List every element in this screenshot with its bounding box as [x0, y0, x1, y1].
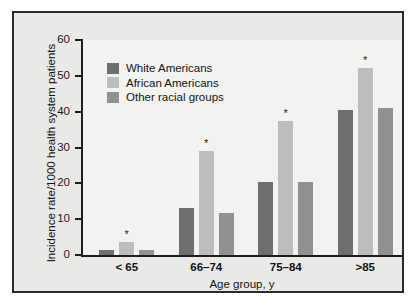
chart-screenshot: 0102030405060 Incidence rate/1000 health… [0, 0, 416, 305]
x-axis-line [81, 255, 403, 257]
bar [139, 250, 154, 255]
bar [258, 182, 273, 255]
legend-swatch-icon [107, 92, 119, 103]
legend-item-label: Other racial groups [126, 91, 224, 103]
significance-marker: * [279, 108, 293, 119]
y-axis-title: Incidence rate/1000 health system patien… [45, 38, 57, 268]
bar [119, 242, 134, 255]
y-axis-tick [75, 182, 82, 184]
y-axis-tick [75, 39, 82, 41]
significance-marker: * [120, 229, 134, 240]
bar [219, 213, 234, 255]
y-axis-tick [75, 218, 82, 220]
x-axis-title: Age group, y [81, 278, 403, 290]
legend: White AmericansAfrican AmericansOther ra… [107, 61, 224, 105]
y-axis-tick [75, 75, 82, 77]
y-axis-tick [75, 111, 82, 113]
bar [278, 121, 293, 255]
legend-item-label: African Americans [126, 77, 219, 89]
figure-frame: 0102030405060 Incidence rate/1000 health… [12, 11, 404, 293]
legend-item-label: White Americans [126, 62, 212, 74]
legend-item: African Americans [107, 76, 224, 91]
legend-swatch-icon [107, 77, 119, 88]
x-axis-tick-label: < 65 [87, 261, 167, 273]
x-axis-tick-label: 66–74 [166, 261, 246, 273]
x-axis-tick-label: >85 [325, 261, 405, 273]
legend-item: Other racial groups [107, 90, 224, 105]
bar [199, 151, 214, 255]
bar [99, 250, 114, 255]
y-axis-tick [75, 254, 82, 256]
bar [298, 182, 313, 255]
bar [378, 108, 393, 255]
bar [358, 68, 373, 255]
bar [338, 110, 353, 255]
x-axis-tick-label: 75–84 [246, 261, 326, 273]
legend-item: White Americans [107, 61, 224, 76]
significance-marker: * [358, 55, 372, 66]
bar [179, 208, 194, 255]
y-axis-tick [75, 147, 82, 149]
significance-marker: * [199, 138, 213, 149]
legend-swatch-icon [107, 63, 119, 74]
